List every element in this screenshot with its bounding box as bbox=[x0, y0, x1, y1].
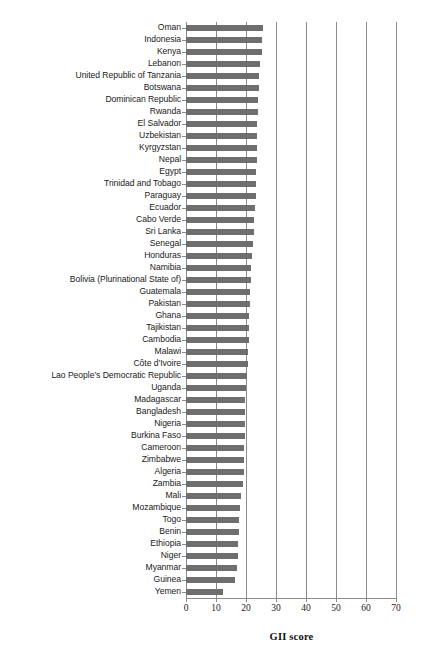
category-label: Cameroon bbox=[0, 442, 181, 454]
x-tick-mark-40 bbox=[306, 598, 307, 602]
bar bbox=[186, 217, 254, 223]
x-tick-mark-20 bbox=[246, 598, 247, 602]
gridline-40 bbox=[306, 22, 307, 598]
x-axis-ticks: 010203040506070 bbox=[0, 598, 425, 614]
bar bbox=[186, 313, 249, 319]
y-tick-mark bbox=[182, 64, 186, 65]
category-label: El Salvador bbox=[0, 118, 181, 130]
category-label: Bolivia (Plurinational State of) bbox=[0, 274, 181, 286]
bar bbox=[186, 73, 259, 79]
x-tick-label-10: 10 bbox=[201, 603, 231, 613]
y-tick-mark bbox=[182, 532, 186, 533]
category-label: Cabo Verde bbox=[0, 214, 181, 226]
bar bbox=[186, 385, 246, 391]
gridline-70 bbox=[396, 22, 397, 598]
x-tick-label-50: 50 bbox=[321, 603, 351, 613]
bar bbox=[186, 61, 260, 67]
category-label: Bangladesh bbox=[0, 406, 181, 418]
category-label: Rwanda bbox=[0, 106, 181, 118]
bar bbox=[186, 541, 238, 547]
bar bbox=[186, 505, 240, 511]
category-label: Niger bbox=[0, 550, 181, 562]
category-label: Ghana bbox=[0, 310, 181, 322]
bar bbox=[186, 361, 248, 367]
y-tick-mark bbox=[182, 316, 186, 317]
x-tick-mark-10 bbox=[216, 598, 217, 602]
y-tick-mark bbox=[182, 352, 186, 353]
y-tick-mark bbox=[182, 268, 186, 269]
bar bbox=[186, 37, 262, 43]
y-tick-mark bbox=[182, 556, 186, 557]
bar bbox=[186, 157, 257, 163]
x-tick-mark-60 bbox=[366, 598, 367, 602]
y-tick-mark bbox=[182, 160, 186, 161]
bar bbox=[186, 349, 248, 355]
category-label: Tajikistan bbox=[0, 322, 181, 334]
bar bbox=[186, 553, 238, 559]
y-tick-mark bbox=[182, 412, 186, 413]
bar bbox=[186, 445, 244, 451]
category-label: Mali bbox=[0, 490, 181, 502]
y-tick-mark bbox=[182, 52, 186, 53]
category-label: Nepal bbox=[0, 154, 181, 166]
bar bbox=[186, 169, 256, 175]
bar bbox=[186, 565, 237, 571]
category-label: Mozambique bbox=[0, 502, 181, 514]
category-label: Dominican Republic bbox=[0, 94, 181, 106]
y-tick-mark bbox=[182, 184, 186, 185]
x-tick-label-70: 70 bbox=[381, 603, 411, 613]
category-label: Uzbekistan bbox=[0, 130, 181, 142]
bar bbox=[186, 481, 243, 487]
y-tick-mark bbox=[182, 100, 186, 101]
x-tick-mark-70 bbox=[396, 598, 397, 602]
bar bbox=[186, 49, 262, 55]
category-label: Ecuador bbox=[0, 202, 181, 214]
y-tick-mark bbox=[182, 508, 186, 509]
category-label: Kyrgyzstan bbox=[0, 142, 181, 154]
category-label: Senegal bbox=[0, 238, 181, 250]
bar bbox=[186, 205, 255, 211]
category-label: Cambodia bbox=[0, 334, 181, 346]
category-label: Sri Lanka bbox=[0, 226, 181, 238]
category-label: Lao People’s Democratic Republic bbox=[0, 370, 181, 382]
category-label: Namibia bbox=[0, 262, 181, 274]
gii-score-bar-chart: OmanIndonesiaKenyaLebanonUnited Republic… bbox=[0, 0, 425, 662]
bar bbox=[186, 25, 263, 31]
category-label: Lebanon bbox=[0, 58, 181, 70]
category-label: Kenya bbox=[0, 46, 181, 58]
y-tick-mark bbox=[182, 340, 186, 341]
x-tick-label-60: 60 bbox=[351, 603, 381, 613]
bar bbox=[186, 469, 244, 475]
category-axis-labels: OmanIndonesiaKenyaLebanonUnited Republic… bbox=[0, 22, 181, 598]
category-label: Algeria bbox=[0, 466, 181, 478]
bar bbox=[186, 409, 245, 415]
bar bbox=[186, 145, 257, 151]
bar bbox=[186, 529, 239, 535]
bar bbox=[186, 517, 239, 523]
bar bbox=[186, 301, 250, 307]
bar bbox=[186, 121, 257, 127]
bar bbox=[186, 109, 258, 115]
y-tick-mark bbox=[182, 136, 186, 137]
bar bbox=[186, 433, 245, 439]
y-tick-mark bbox=[182, 304, 186, 305]
bar bbox=[186, 289, 250, 295]
x-tick-label-20: 20 bbox=[231, 603, 261, 613]
bar bbox=[186, 133, 257, 139]
y-tick-mark bbox=[182, 520, 186, 521]
y-tick-mark bbox=[182, 376, 186, 377]
category-label: Côte d’Ivoire bbox=[0, 358, 181, 370]
category-label: Zambia bbox=[0, 478, 181, 490]
bar bbox=[186, 397, 245, 403]
y-tick-mark bbox=[182, 280, 186, 281]
category-label: Zimbabwe bbox=[0, 454, 181, 466]
category-label: Indonesia bbox=[0, 34, 181, 46]
category-label: Nigeria bbox=[0, 418, 181, 430]
y-tick-mark bbox=[182, 580, 186, 581]
y-tick-mark bbox=[182, 400, 186, 401]
y-tick-mark bbox=[182, 40, 186, 41]
y-tick-mark bbox=[182, 124, 186, 125]
category-label: Paraguay bbox=[0, 190, 181, 202]
plot-area bbox=[186, 22, 396, 598]
y-tick-mark bbox=[182, 592, 186, 593]
